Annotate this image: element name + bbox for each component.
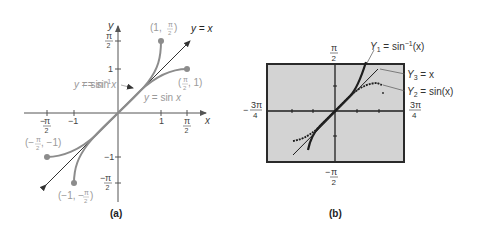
svg-text:−: − [325, 167, 330, 177]
svg-text:2: 2 [183, 85, 187, 91]
point-label-1-half-pi: (1, π 2 ) [150, 21, 177, 36]
svg-text:y = sin−1x: y = sin−1x [73, 78, 117, 90]
b-right-label: 3π 4 [409, 100, 421, 120]
svg-text:, −1): , −1) [41, 137, 61, 148]
b-bottom-label: − π 2 [325, 167, 338, 187]
svg-text:3π: 3π [410, 100, 421, 110]
svg-text:2: 2 [107, 42, 111, 49]
svg-text:π: π [331, 43, 337, 53]
svg-text:2: 2 [168, 30, 172, 36]
panel-a: − π 2 −1 1 π 2 x y π 2 1 −1 − π 2 [24, 19, 213, 219]
svg-text:, 1): , 1) [188, 77, 202, 88]
y-axis-label: y [107, 19, 115, 31]
svg-text:−1: −1 [68, 116, 78, 126]
svg-text:(: ( [178, 77, 182, 88]
label-y2: Y2 = sin(x) [407, 86, 453, 98]
b-left-label: − 3π 4 [243, 100, 262, 120]
svg-text:(1,: (1, [150, 22, 162, 33]
label-sin: y = sin x [143, 92, 182, 103]
svg-text:2: 2 [36, 145, 40, 151]
svg-text:1: 1 [108, 64, 113, 74]
svg-text:3π: 3π [251, 100, 262, 110]
svg-text:1: 1 [159, 116, 164, 126]
panel-b: π 2 − π 2 − 3π 4 3π 4 [243, 40, 453, 219]
svg-text:2: 2 [332, 178, 337, 187]
svg-text:): ) [90, 190, 93, 201]
label-y3: Y3 = x [407, 69, 434, 81]
svg-text:π: π [106, 31, 112, 41]
svg-text:2: 2 [45, 127, 49, 134]
label-y-equals-x: y = x [190, 23, 213, 34]
svg-text:−: − [243, 105, 248, 115]
stray-pixel [382, 92, 384, 94]
svg-text:π: π [84, 189, 89, 196]
caption-b: (b) [329, 208, 342, 219]
svg-text:2: 2 [185, 127, 189, 134]
svg-text:4: 4 [412, 111, 417, 120]
svg-text:(−1, −: (−1, − [58, 190, 84, 201]
point-label-neg-1-neg-half-pi: (−1, − π 2 ) [58, 189, 93, 204]
label-y1: Y1 = sin−1(x) [370, 40, 424, 53]
svg-text:π: π [331, 167, 337, 177]
y-tick-labels: y π 2 1 −1 − π 2 [100, 19, 115, 191]
svg-text:2: 2 [332, 54, 337, 63]
svg-text:−1: −1 [104, 152, 114, 162]
svg-text:π: π [184, 116, 190, 126]
x-axis-label: x [204, 115, 211, 126]
point-label-neg-half-pi-neg-1: (− π 2 , −1) [25, 136, 61, 151]
point-label-half-pi-1: ( π 2 , 1) [178, 76, 202, 91]
caption-a: (a) [110, 208, 122, 219]
svg-text:): ) [174, 22, 177, 33]
figure: − π 2 −1 1 π 2 x y π 2 1 −1 − π 2 [0, 0, 477, 231]
svg-text:(−: (− [25, 137, 34, 148]
svg-text:2: 2 [84, 198, 88, 204]
endpoint-dots [44, 38, 190, 186]
svg-text:4: 4 [253, 111, 258, 120]
svg-text:π: π [105, 173, 111, 183]
svg-text:π: π [168, 21, 173, 28]
svg-text:π: π [44, 116, 50, 126]
b-top-label: π 2 [330, 43, 338, 63]
svg-text:2: 2 [106, 184, 110, 191]
x-tick-labels: − π 2 −1 1 π 2 x [40, 115, 211, 134]
